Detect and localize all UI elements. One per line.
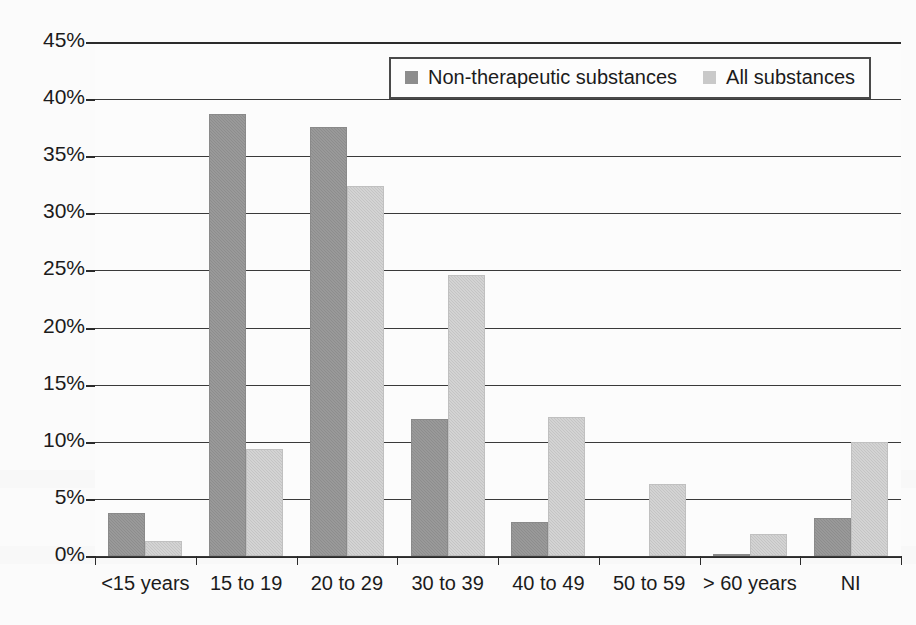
y-axis-tick-label: 15%: [15, 371, 85, 395]
y-axis-tick-label: 25%: [15, 256, 85, 280]
chart-legend: Non-therapeutic substances All substance…: [389, 57, 871, 99]
bar: [649, 484, 686, 556]
x-axis-tick-label: NI: [800, 572, 901, 595]
legend-item-non-therapeutic-substances: Non-therapeutic substances: [405, 66, 677, 89]
x-axis-tick: [297, 556, 298, 565]
y-axis-tick: [86, 270, 95, 272]
bar: [511, 522, 548, 556]
x-axis-tick-label: 40 to 49: [498, 572, 599, 595]
legend-item-all-substances: All substances: [703, 66, 855, 89]
x-axis-tick: [599, 556, 600, 565]
x-axis-tick: [95, 556, 96, 565]
y-axis-tick: [86, 556, 95, 558]
y-axis-tick-label: 40%: [15, 85, 85, 109]
gridline: [95, 42, 901, 44]
y-axis-tick-label: 35%: [15, 142, 85, 166]
y-axis-tick-label: 30%: [15, 199, 85, 223]
y-axis-tick: [86, 499, 95, 501]
y-axis-tick-label: 20%: [15, 314, 85, 338]
x-axis-tick: [800, 556, 801, 565]
x-axis-tick: [901, 556, 902, 565]
legend-swatch-icon: [703, 71, 716, 84]
bar: [347, 186, 384, 556]
bar: [750, 534, 787, 556]
bar: [411, 419, 448, 556]
bar-chart: 45%40%35%30%25%20%15%10%5%0% <15 years15…: [0, 0, 916, 625]
y-axis-tick: [86, 442, 95, 444]
bar: [851, 442, 888, 556]
y-axis-tick: [86, 156, 95, 158]
x-axis-tick-label: <15 years: [95, 572, 196, 595]
bar: [246, 449, 283, 556]
y-axis-tick-label: 10%: [15, 428, 85, 452]
bar: [548, 417, 585, 556]
x-axis-tick-label: 20 to 29: [297, 572, 398, 595]
bar: [713, 554, 750, 556]
x-axis-tick-label: > 60 years: [700, 572, 801, 595]
bar: [814, 518, 851, 556]
x-axis-tick: [196, 556, 197, 565]
bar: [310, 127, 347, 556]
x-axis-tick-label: 30 to 39: [397, 572, 498, 595]
x-axis-tick-label: 50 to 59: [599, 572, 700, 595]
y-axis-tick: [86, 213, 95, 215]
x-axis-tick: [397, 556, 398, 565]
bar: [108, 513, 145, 556]
bar: [448, 275, 485, 556]
y-axis-tick-label: 5%: [15, 485, 85, 509]
y-axis-tick: [86, 99, 95, 101]
bar: [209, 114, 246, 556]
x-axis-tick: [498, 556, 499, 565]
y-axis-tick: [86, 385, 95, 387]
legend-label: All substances: [726, 66, 855, 89]
y-axis-tick-label: 0%: [15, 542, 85, 566]
plot-area: [95, 42, 901, 556]
y-axis-tick-label: 45%: [15, 28, 85, 52]
gridline: [95, 99, 901, 100]
legend-swatch-icon: [405, 71, 418, 84]
y-axis-tick: [86, 42, 95, 44]
y-axis-tick: [86, 328, 95, 330]
x-axis-tick: [700, 556, 701, 565]
legend-label: Non-therapeutic substances: [428, 66, 677, 89]
bar: [145, 541, 182, 556]
x-axis-tick-label: 15 to 19: [196, 572, 297, 595]
